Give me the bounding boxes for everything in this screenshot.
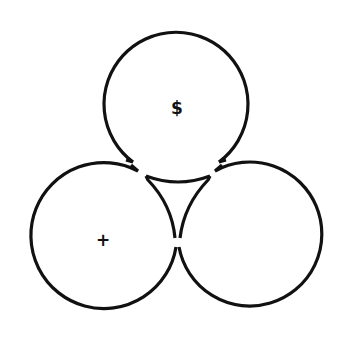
right-circle-outline xyxy=(179,162,322,306)
center-curved-triangle-top xyxy=(146,176,210,182)
top-left-hook xyxy=(126,160,133,162)
dollar-sign-icon: $ xyxy=(171,98,183,118)
plus-sign-icon: + xyxy=(96,230,110,250)
center-curved-triangle-left xyxy=(146,176,175,238)
three-circle-diagram: $ + xyxy=(0,0,347,337)
top-right-hook xyxy=(219,160,226,162)
center-curved-triangle-right xyxy=(180,176,210,238)
